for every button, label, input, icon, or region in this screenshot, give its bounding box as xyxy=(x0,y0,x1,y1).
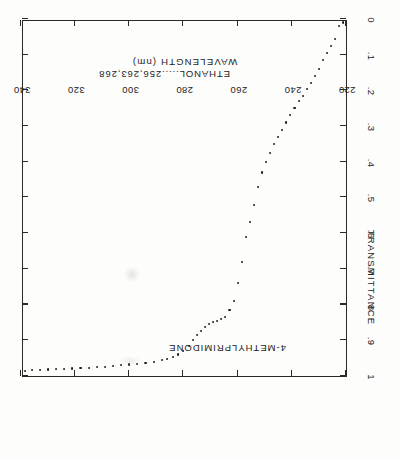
data-point xyxy=(285,121,287,123)
y-axis-tick xyxy=(341,375,347,376)
y-axis-tick xyxy=(23,268,29,269)
compound-name-annotation: 4-METHYLPRIMIDONE xyxy=(168,343,286,354)
data-point xyxy=(104,366,106,368)
data-point xyxy=(208,323,210,325)
y-axis-tick xyxy=(23,125,29,126)
data-point xyxy=(281,129,283,131)
data-point xyxy=(302,95,304,97)
data-point xyxy=(71,367,73,369)
y-axis-tick-label: .4 xyxy=(366,149,377,177)
data-point xyxy=(338,25,340,27)
data-point xyxy=(128,364,130,366)
data-point xyxy=(277,136,279,138)
x-axis-tick xyxy=(128,21,129,27)
data-point xyxy=(63,368,65,370)
x-axis-tick-label: 300 xyxy=(122,85,139,96)
x-axis-tick xyxy=(128,371,129,377)
y-axis-tick-label: .3 xyxy=(366,113,377,141)
data-point xyxy=(257,186,259,188)
data-point xyxy=(161,359,163,361)
x-axis-tick xyxy=(20,21,21,27)
data-point xyxy=(31,369,33,371)
y-axis-tick xyxy=(23,339,29,340)
data-point xyxy=(294,107,296,109)
x-axis-tick xyxy=(74,21,75,27)
x-axis-tick-label: 240 xyxy=(284,85,301,96)
solvent-annotation: ETHANOL.....256,263,268 xyxy=(98,69,230,80)
y-axis-tick xyxy=(341,18,347,19)
y-axis-tick-label: .1 xyxy=(366,42,377,70)
data-point xyxy=(314,75,316,77)
x-axis-title: WAVELENGTH (nm) xyxy=(22,57,347,68)
data-point xyxy=(229,309,231,311)
data-point xyxy=(289,114,291,116)
data-point xyxy=(330,45,332,47)
data-point xyxy=(112,365,114,367)
data-point xyxy=(306,88,308,90)
y-axis-tick xyxy=(341,339,347,340)
data-point xyxy=(120,364,122,366)
data-point xyxy=(136,363,138,365)
x-axis-tick xyxy=(182,371,183,377)
data-point xyxy=(265,161,267,163)
data-point xyxy=(224,316,226,318)
y-axis-tick xyxy=(341,268,347,269)
plot-frame: 4-METHYLPRIMIDONE ETHANOL.....256,263,26… xyxy=(22,20,347,377)
y-axis-tick xyxy=(23,18,29,19)
y-axis-tick xyxy=(23,196,29,197)
data-point xyxy=(241,261,243,263)
scan-artifact-smudge xyxy=(124,266,140,283)
x-axis-tick xyxy=(345,21,346,27)
x-axis-tick-label: 220 xyxy=(338,85,355,96)
data-point xyxy=(342,22,344,24)
data-point xyxy=(326,52,328,54)
y-axis-title: TRANSMITTANCE xyxy=(366,193,377,363)
data-point xyxy=(310,82,312,84)
y-axis-tick xyxy=(23,161,29,162)
data-point xyxy=(88,367,90,369)
data-point xyxy=(245,236,247,238)
data-point xyxy=(166,358,168,360)
x-axis-tick-label: 340 xyxy=(13,85,30,96)
y-axis-tick xyxy=(23,54,29,55)
data-point xyxy=(318,68,320,70)
y-axis-tick-label: 0 xyxy=(366,6,377,34)
data-point xyxy=(237,282,239,284)
x-axis-tick xyxy=(20,371,21,377)
data-point xyxy=(153,361,155,363)
data-point xyxy=(192,339,194,341)
data-point xyxy=(273,143,275,145)
y-axis-tick xyxy=(341,125,347,126)
data-point xyxy=(220,318,222,320)
data-point xyxy=(145,362,147,364)
x-axis-tick xyxy=(237,21,238,27)
x-axis-tick xyxy=(182,21,183,27)
y-axis-tick xyxy=(23,375,29,376)
y-axis-tick xyxy=(341,232,347,233)
y-axis-tick xyxy=(23,303,29,304)
y-axis-tick xyxy=(341,303,347,304)
data-point xyxy=(24,370,26,372)
data-point xyxy=(96,366,98,368)
y-axis-tick-label: 1 xyxy=(366,363,377,391)
y-axis-tick xyxy=(341,54,347,55)
y-axis-tick xyxy=(341,196,347,197)
x-axis-tick xyxy=(291,371,292,377)
y-axis-tick xyxy=(341,161,347,162)
x-axis-tick xyxy=(237,371,238,377)
x-axis-tick-label: 320 xyxy=(68,85,85,96)
data-point xyxy=(200,330,202,332)
y-axis-tick-label: .2 xyxy=(366,77,377,105)
data-point xyxy=(269,152,271,154)
data-point xyxy=(196,334,198,336)
data-point xyxy=(334,38,336,40)
data-point xyxy=(80,367,82,369)
x-axis-tick-label: 280 xyxy=(176,85,193,96)
data-point xyxy=(298,100,300,102)
data-point xyxy=(216,320,218,322)
data-point xyxy=(204,326,206,328)
data-point xyxy=(261,171,263,173)
x-axis-tick xyxy=(291,21,292,27)
data-point xyxy=(47,369,49,371)
x-axis-tick-label: 260 xyxy=(230,85,247,96)
